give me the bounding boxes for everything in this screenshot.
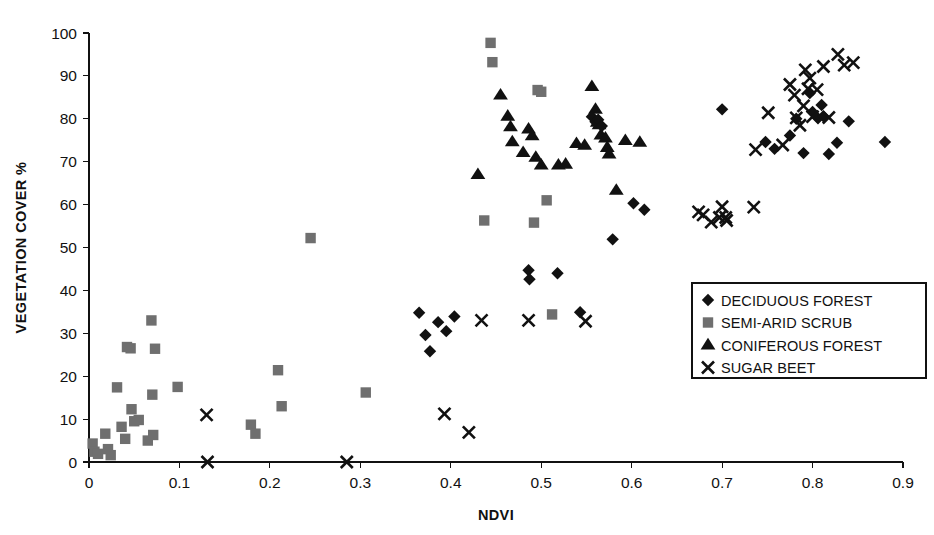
data-point bbox=[748, 201, 760, 213]
data-point bbox=[485, 38, 495, 48]
y-tick-label: 80 bbox=[60, 110, 78, 127]
series-semi-arid-scrub bbox=[87, 38, 557, 461]
y-tick-label: 0 bbox=[68, 454, 77, 471]
x-tick-label: 0.3 bbox=[350, 474, 372, 491]
data-point bbox=[523, 314, 535, 326]
scatter-chart: 0102030405060708090100 00.10.20.30.40.50… bbox=[0, 0, 934, 535]
y-tick-label: 90 bbox=[60, 67, 78, 84]
data-point bbox=[126, 404, 136, 414]
data-point bbox=[817, 60, 829, 72]
y-tick-label: 50 bbox=[60, 239, 78, 256]
x-tick-label: 0.8 bbox=[802, 474, 824, 491]
y-axis-title: VEGETATION COVER % bbox=[13, 162, 29, 334]
data-point bbox=[547, 309, 557, 319]
x-tick-label: 0.2 bbox=[259, 474, 281, 491]
x-tick-label: 0.6 bbox=[621, 474, 643, 491]
legend-item-deciduous-forest[interactable]: DECIDUOUS FOREST bbox=[702, 293, 873, 309]
data-point bbox=[150, 344, 160, 354]
data-point bbox=[493, 88, 508, 100]
data-point bbox=[811, 84, 823, 96]
data-point bbox=[536, 87, 546, 97]
x-tick-label: 0 bbox=[85, 474, 94, 491]
data-point bbox=[479, 215, 489, 225]
data-point bbox=[201, 409, 213, 421]
y-tick-label: 30 bbox=[60, 325, 78, 342]
legend-label: SEMI-ARID SCRUB bbox=[721, 315, 852, 331]
data-point bbox=[106, 450, 116, 460]
data-point bbox=[413, 307, 425, 319]
data-point bbox=[125, 343, 135, 353]
legend-item-semi-arid-scrub[interactable]: SEMI-ARID SCRUB bbox=[703, 315, 852, 331]
data-point bbox=[116, 422, 126, 432]
series-sugar-beet bbox=[201, 48, 860, 468]
x-tick-label: 0.5 bbox=[530, 474, 552, 491]
data-point bbox=[516, 145, 531, 157]
legend-marker-square-icon bbox=[703, 317, 713, 327]
series-coniferous-forest bbox=[471, 79, 648, 194]
data-point bbox=[503, 120, 518, 132]
data-point bbox=[627, 197, 639, 209]
data-point bbox=[784, 78, 796, 90]
data-point bbox=[762, 107, 774, 119]
y-tick-label: 20 bbox=[60, 368, 78, 385]
data-point bbox=[487, 57, 497, 67]
data-point bbox=[500, 109, 515, 121]
data-point bbox=[716, 103, 728, 115]
data-point bbox=[505, 135, 520, 147]
y-tick-label: 100 bbox=[51, 25, 77, 42]
y-tick-label: 70 bbox=[60, 153, 78, 170]
data-point bbox=[584, 79, 599, 91]
data-point bbox=[305, 233, 315, 243]
data-point bbox=[273, 365, 283, 375]
x-tick-label: 0.1 bbox=[169, 474, 191, 491]
data-point bbox=[276, 401, 286, 411]
x-axis-ticks: 00.10.20.30.40.50.60.70.80.9 bbox=[85, 462, 914, 491]
data-point bbox=[432, 316, 444, 328]
data-point bbox=[632, 135, 647, 147]
y-tick-label: 60 bbox=[60, 196, 78, 213]
data-point bbox=[529, 217, 539, 227]
data-point bbox=[551, 267, 563, 279]
data-point bbox=[523, 273, 535, 285]
legend-label: CONIFEROUS FOREST bbox=[721, 338, 882, 354]
data-point bbox=[424, 345, 436, 357]
data-point bbox=[471, 167, 486, 179]
data-point bbox=[618, 133, 633, 145]
data-point bbox=[831, 137, 843, 149]
data-point bbox=[93, 449, 103, 459]
data-series-layer bbox=[87, 38, 891, 468]
data-point bbox=[172, 382, 182, 392]
data-point bbox=[147, 389, 157, 399]
data-point bbox=[134, 415, 144, 425]
data-point bbox=[797, 147, 809, 159]
data-point bbox=[847, 57, 859, 69]
data-point bbox=[541, 195, 551, 205]
data-point bbox=[463, 426, 475, 438]
x-axis-title: NDVI bbox=[478, 507, 514, 523]
legend-label: SUGAR BEET bbox=[721, 360, 816, 376]
data-point bbox=[146, 315, 156, 325]
data-point bbox=[838, 59, 850, 71]
legend: DECIDUOUS FORESTSEMI-ARID SCRUBCONIFEROU… bbox=[692, 283, 926, 378]
data-point bbox=[750, 144, 762, 156]
data-point bbox=[609, 183, 624, 195]
legend-item-coniferous-forest[interactable]: CONIFEROUS FOREST bbox=[701, 338, 883, 354]
data-point bbox=[716, 201, 728, 213]
data-point bbox=[580, 315, 592, 327]
legend-label: DECIDUOUS FOREST bbox=[721, 293, 872, 309]
data-point bbox=[823, 148, 835, 160]
data-point bbox=[843, 115, 855, 127]
x-tick-label: 0.9 bbox=[892, 474, 914, 491]
data-point bbox=[440, 325, 452, 337]
data-point bbox=[832, 48, 844, 60]
data-point bbox=[438, 408, 450, 420]
data-point bbox=[476, 314, 488, 326]
data-point bbox=[246, 419, 256, 429]
plot-area: 0102030405060708090100 00.10.20.30.40.50… bbox=[0, 0, 934, 535]
data-point bbox=[815, 99, 827, 111]
data-point bbox=[361, 387, 371, 397]
data-point bbox=[448, 310, 460, 322]
y-tick-label: 40 bbox=[60, 282, 78, 299]
data-point bbox=[112, 382, 122, 392]
x-tick-label: 0.4 bbox=[440, 474, 462, 491]
